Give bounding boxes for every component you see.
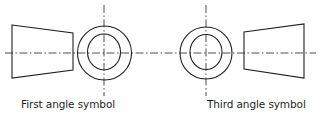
first-angle-symbol bbox=[12, 5, 132, 96]
third-angle-symbol bbox=[180, 5, 304, 96]
first-angle-label: First angle symbol bbox=[21, 98, 115, 110]
first-angle-frustum-side-view bbox=[12, 25, 73, 78]
third-angle-frustum-side-view bbox=[244, 24, 304, 78]
third-angle-label: Third angle symbol bbox=[207, 98, 306, 110]
